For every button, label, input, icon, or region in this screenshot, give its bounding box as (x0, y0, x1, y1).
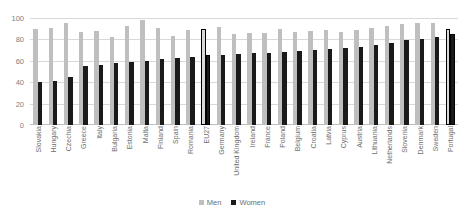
x-axis-label-cell: Croatia (305, 126, 320, 188)
bar-women (160, 59, 164, 125)
x-axis-label-cell: Bulgaria (106, 126, 121, 188)
bar-women (328, 49, 332, 125)
x-axis-tick-label: Estonia (126, 126, 133, 149)
bar-group (397, 18, 412, 125)
x-axis-label-cell: Cyprus (336, 126, 351, 188)
x-axis-tick-label: Croatia (309, 126, 316, 149)
bar-group (30, 18, 45, 125)
x-axis-label-cell: Ireland (244, 126, 259, 188)
x-axis-tick-label: United Kingdom (233, 126, 240, 176)
y-axis-tick-label: 0 (0, 121, 24, 130)
bar-women (420, 39, 424, 125)
x-axis-label-cell: Poland (275, 126, 290, 188)
bar-group (366, 18, 381, 125)
employment-rate-bar-chart: 020406080100 SlovakiaHungaryCzechiaGreec… (0, 0, 464, 218)
legend-swatch-women (231, 200, 236, 205)
bar-women (389, 43, 393, 125)
x-axis-tick-label: Portugal (447, 126, 454, 152)
bar-women (38, 82, 42, 125)
y-axis-tick-label: 40 (0, 78, 24, 87)
x-axis-label-cell: Belgium (290, 126, 305, 188)
bar-women (190, 57, 194, 125)
x-axis-tick-label: Slovakia (34, 126, 41, 152)
x-axis-tick-label: Czechia (65, 126, 72, 151)
bar-group (427, 18, 442, 125)
x-axis-tick-label: Spain (172, 126, 179, 144)
bar-group (351, 18, 366, 125)
legend-item[interactable]: Women (231, 198, 265, 207)
x-axis-label-cell: Netherlands (381, 126, 396, 188)
y-axis: 020406080100 (0, 18, 28, 125)
x-axis-tick-label: Austria (355, 126, 362, 148)
x-axis-label-cell: Lithuania (366, 126, 381, 188)
bar-group (91, 18, 106, 125)
y-axis-tick-label: 60 (0, 56, 24, 65)
x-axis-label-cell: Portugal (443, 126, 458, 188)
bar-group (213, 18, 228, 125)
bar-women (359, 47, 363, 125)
x-axis-tick-label: Netherlands (386, 126, 393, 164)
y-axis-tick-label: 20 (0, 99, 24, 108)
x-axis-label-cell: Austria (351, 126, 366, 188)
x-axis-label-cell: Latvia (320, 126, 335, 188)
bar-group (106, 18, 121, 125)
bar-women (343, 48, 347, 125)
bar-women (267, 53, 271, 125)
bar-women (252, 53, 256, 125)
bar-women (221, 55, 225, 125)
bar-women (313, 50, 317, 125)
x-axis-label-cell: Denmark (412, 126, 427, 188)
x-axis-tick-label: Denmark (416, 126, 423, 154)
bar-group (122, 18, 137, 125)
bar-series-container (30, 18, 458, 125)
x-axis-labels: SlovakiaHungaryCzechiaGreeceItalyBulgari… (30, 126, 458, 188)
bar-women (374, 45, 378, 125)
bar-group (229, 18, 244, 125)
bar-women (297, 51, 301, 125)
bar-women (206, 55, 210, 125)
x-axis-label-cell: EU27 (198, 126, 213, 188)
bar-group (61, 18, 76, 125)
legend-label: Men (207, 198, 222, 207)
bar-group (198, 18, 213, 125)
x-axis-tick-label: Cyprus (340, 126, 347, 148)
x-axis-label-cell: Greece (76, 126, 91, 188)
legend-item[interactable]: Men (199, 198, 222, 207)
x-axis-label-cell: Czechia (61, 126, 76, 188)
bar-women (129, 62, 133, 125)
bar-group (137, 18, 152, 125)
y-axis-tick-label: 100 (0, 14, 24, 23)
x-axis-label-cell: Malta (137, 126, 152, 188)
x-axis-label-cell: Sweden (427, 126, 442, 188)
bar-group (259, 18, 274, 125)
bar-group (320, 18, 335, 125)
x-axis-tick-label: Slovenia (401, 126, 408, 153)
bar-group (45, 18, 60, 125)
x-axis-tick-label: Poland (279, 126, 286, 148)
bar-women (68, 77, 72, 125)
bar-women (99, 65, 103, 125)
bar-group (443, 18, 458, 125)
x-axis-tick-label: Malta (141, 126, 148, 143)
x-axis-tick-label: Germany (218, 126, 225, 155)
bar-group (76, 18, 91, 125)
legend-label: Women (239, 198, 265, 207)
bar-women (435, 37, 439, 125)
bar-group (336, 18, 351, 125)
bar-women (175, 58, 179, 125)
x-axis-tick-label: Ireland (248, 126, 255, 147)
x-axis-label-cell: Hungary (45, 126, 60, 188)
bar-group (183, 18, 198, 125)
x-axis-tick-label: Romania (187, 126, 194, 154)
bar-group (305, 18, 320, 125)
x-axis-label-cell: Italy (91, 126, 106, 188)
x-axis-tick-label: Bulgaria (111, 126, 118, 152)
bar-group (381, 18, 396, 125)
x-axis-label-cell: France (259, 126, 274, 188)
bar-women (236, 54, 240, 125)
x-axis-tick-label: Sweden (431, 126, 438, 151)
bar-group (244, 18, 259, 125)
chart-legend: MenWomen (0, 198, 464, 207)
bar-group (412, 18, 427, 125)
bar-group (290, 18, 305, 125)
